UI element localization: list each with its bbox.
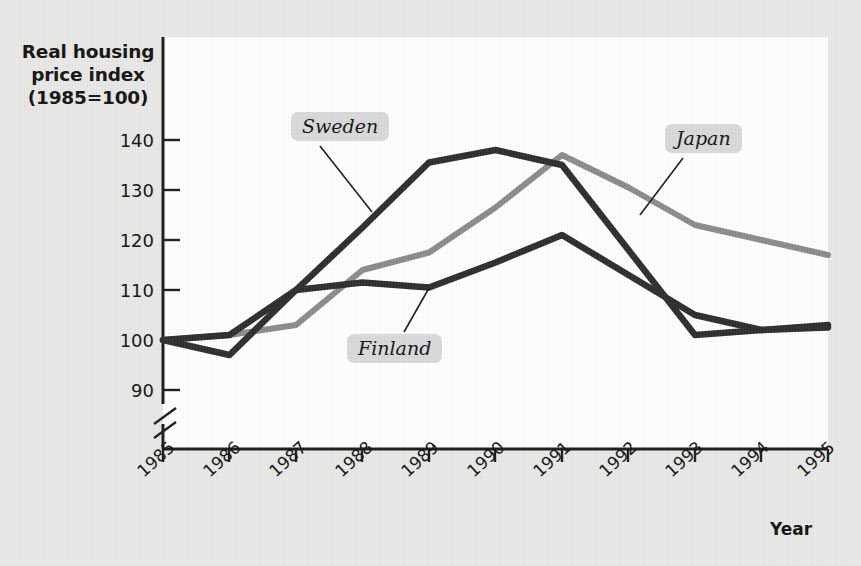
y-tick-label-120: 120 (96, 230, 154, 251)
y-tick-label-100: 100 (96, 330, 154, 351)
y-tick-label-110: 110 (96, 280, 154, 301)
series-label-sweden: Sweden (291, 112, 389, 141)
chart-page: Real housing price index (1985=100) Year… (0, 0, 861, 566)
leader-line-finland (404, 288, 429, 332)
series-label-japan: Japan (665, 124, 742, 153)
y-tick-label-140: 140 (96, 130, 154, 151)
chart-title-line-1: Real housing (18, 40, 158, 63)
leader-line-sweden (320, 146, 372, 212)
chart-title-line-2: price index (18, 63, 158, 86)
y-axis-ticks (163, 140, 180, 390)
x-axis-title: Year (770, 519, 812, 539)
y-tick-label-130: 130 (96, 180, 154, 201)
chart-title-line-3: (1985=100) (18, 86, 158, 109)
series-label-finland: Finland (347, 334, 442, 363)
axis-break-icon (154, 408, 176, 438)
chart-title: Real housing price index (1985=100) (18, 40, 158, 109)
y-tick-label-90: 90 (96, 380, 154, 401)
